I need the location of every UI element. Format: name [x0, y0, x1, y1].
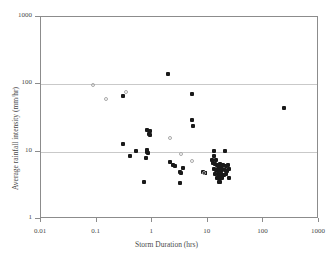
x-tick-mark — [96, 218, 97, 222]
data-point — [168, 136, 172, 140]
data-point — [218, 180, 222, 184]
x-tick-label: 1000 — [311, 228, 325, 235]
plot-area — [40, 16, 318, 218]
y-tick-label: 1 — [0, 214, 32, 221]
y-tick-label: 1000 — [0, 12, 32, 19]
data-point — [202, 171, 206, 175]
data-point — [212, 149, 216, 153]
x-tick-label: 0.01 — [34, 228, 46, 235]
data-point — [227, 176, 231, 180]
y-tick-mark — [35, 151, 40, 152]
data-point — [223, 149, 227, 153]
data-point — [178, 181, 182, 185]
data-point — [282, 106, 286, 110]
data-point — [190, 118, 194, 122]
gridline — [41, 84, 317, 85]
y-tick-mark — [35, 16, 40, 17]
data-point — [128, 154, 132, 158]
x-axis-title: Storm Duration (hrs) — [0, 240, 333, 249]
data-point — [134, 149, 138, 153]
x-tick-label: 0.1 — [91, 228, 100, 235]
data-point — [148, 133, 152, 137]
x-tick-mark — [262, 218, 263, 222]
data-point — [144, 156, 148, 160]
x-tick-label: 100 — [257, 228, 268, 235]
data-point — [121, 94, 125, 98]
data-point — [124, 90, 128, 94]
x-tick-mark — [151, 218, 152, 222]
data-point — [166, 72, 170, 76]
data-point — [179, 171, 183, 175]
data-point — [190, 92, 194, 96]
data-point — [191, 124, 195, 128]
x-tick-mark — [40, 218, 41, 222]
data-point — [227, 167, 231, 171]
y-tick-mark — [35, 83, 40, 84]
x-tick-mark — [318, 218, 319, 222]
y-axis-title: Average rainfall intensity (mm/hr) — [11, 87, 20, 190]
data-point — [104, 97, 108, 101]
x-tick-label: 10 — [203, 228, 210, 235]
y-tick-label: 100 — [0, 79, 32, 86]
data-point — [91, 83, 95, 87]
x-tick-label: 1 — [149, 228, 153, 235]
x-tick-mark — [207, 218, 208, 222]
data-point — [220, 176, 224, 180]
data-point — [190, 159, 194, 163]
data-point — [179, 152, 183, 156]
scatter-chart: 1101001000 0.010.11101001000 Average rai… — [0, 0, 333, 254]
data-point — [146, 151, 150, 155]
data-point — [121, 142, 125, 146]
data-point — [226, 163, 230, 167]
data-point — [181, 166, 185, 170]
data-point — [173, 164, 177, 168]
data-point — [142, 180, 146, 184]
